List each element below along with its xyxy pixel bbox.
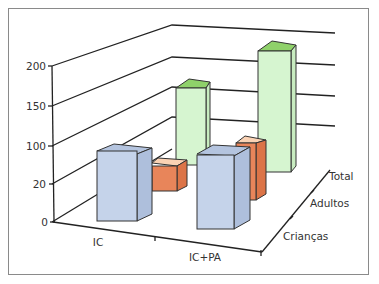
y-label-150: 150 xyxy=(26,100,46,112)
x-label-ic: IC xyxy=(93,236,103,248)
y-label-100: 100 xyxy=(26,140,46,152)
bar-ic-criancas xyxy=(97,144,152,221)
z-label-adultos: Adultos xyxy=(310,197,349,209)
z-label-criancas: Crianças xyxy=(283,230,328,242)
bar-ic-adultos xyxy=(152,158,187,191)
y-label-20: 20 xyxy=(33,178,46,190)
y-label-200: 200 xyxy=(26,60,46,72)
y-axis xyxy=(48,66,55,222)
chart-canvas: 200 150 100 20 0 xyxy=(0,0,379,284)
y-axis-labels: 200 150 100 20 0 xyxy=(26,60,48,228)
y-label-0: 0 xyxy=(41,216,48,228)
bar-icpa-criancas xyxy=(197,145,250,229)
x-label-icpa: IC+PA xyxy=(189,251,222,263)
z-label-total: Total xyxy=(328,170,354,182)
